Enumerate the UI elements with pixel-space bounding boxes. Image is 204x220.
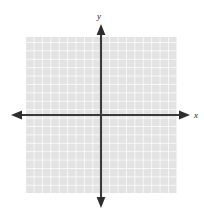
y-axis-label: y [96, 11, 101, 21]
y-axis-top-arrowhead [97, 24, 106, 35]
coordinate-plane-svg: y x [0, 0, 204, 220]
x-axis-right-arrowhead [179, 111, 190, 120]
y-axis-bottom-arrowhead [97, 197, 106, 208]
x-axis-left-arrowhead [11, 111, 22, 120]
x-axis-label: x [193, 110, 198, 120]
coordinate-plane-figure: y x [0, 0, 204, 220]
